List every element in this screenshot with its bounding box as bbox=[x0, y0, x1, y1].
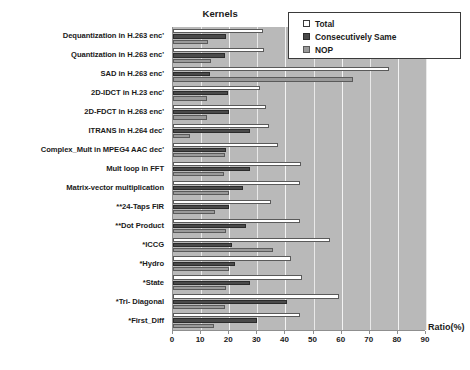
y-axis-label: SAD in H.263 enc' bbox=[101, 69, 164, 79]
y-axis-label: *Tri- Diagonal bbox=[116, 297, 164, 307]
bar-total bbox=[173, 29, 263, 33]
legend-item-cons[interactable]: Consecutively Same bbox=[303, 30, 454, 43]
bar-nop bbox=[173, 115, 207, 119]
bar-total bbox=[173, 143, 278, 147]
bar-group bbox=[173, 141, 426, 160]
bar-total bbox=[173, 294, 339, 298]
x-tick-10 bbox=[200, 331, 201, 334]
bar-total bbox=[173, 86, 260, 90]
legend-item-total[interactable]: Total bbox=[303, 17, 454, 30]
x-tick-label-50: 50 bbox=[308, 335, 317, 344]
bar-cons bbox=[173, 34, 226, 38]
bar-total bbox=[173, 67, 389, 71]
y-axis-label: *ICCG bbox=[142, 240, 164, 250]
x-tick-30 bbox=[256, 331, 257, 334]
bar-group bbox=[173, 84, 426, 103]
gridline-90 bbox=[426, 27, 427, 330]
bar-total bbox=[173, 181, 300, 185]
bar-group bbox=[173, 160, 426, 179]
x-tick-label-80: 80 bbox=[392, 335, 401, 344]
bar-nop bbox=[173, 40, 208, 44]
y-axis-label: 2D-IDCT in H.23 enc' bbox=[91, 88, 164, 98]
x-tick-20 bbox=[228, 331, 229, 334]
y-axis-label: Matrix-vector multiplication bbox=[66, 183, 164, 193]
bar-cons bbox=[173, 318, 257, 322]
bar-group bbox=[173, 103, 426, 122]
y-axis-label: Dequantization in H.263 enc' bbox=[63, 31, 164, 41]
bar-group bbox=[173, 235, 426, 254]
bar-cons bbox=[173, 167, 250, 171]
y-axis-label: *State bbox=[143, 278, 164, 288]
bar-total bbox=[173, 200, 271, 204]
bar-rows bbox=[173, 27, 426, 330]
x-tick-50 bbox=[313, 331, 314, 334]
bar-total bbox=[173, 162, 301, 166]
y-axis-label: *First_Diff bbox=[128, 316, 164, 326]
y-axis-label: Quantization in H.263 enc' bbox=[71, 50, 164, 60]
bar-group bbox=[173, 65, 426, 84]
bar-nop bbox=[173, 229, 226, 233]
x-axis-ticks: 0102030405060708090 bbox=[0, 331, 470, 347]
bar-total bbox=[173, 48, 264, 52]
bar-cons bbox=[173, 243, 232, 247]
bar-cons bbox=[173, 224, 246, 228]
y-axis-label: **Dot Product bbox=[115, 221, 164, 231]
bar-total bbox=[173, 105, 266, 109]
x-tick-label-40: 40 bbox=[280, 335, 289, 344]
y-axis-label: *Hydro bbox=[139, 259, 164, 269]
bar-total bbox=[173, 313, 300, 317]
x-tick-label-0: 0 bbox=[170, 335, 174, 344]
bar-total bbox=[173, 238, 330, 242]
bar-cons bbox=[173, 281, 250, 285]
bar-total bbox=[173, 256, 291, 260]
x-tick-40 bbox=[284, 331, 285, 334]
bar-cons bbox=[173, 262, 235, 266]
bar-cons bbox=[173, 148, 226, 152]
bar-total bbox=[173, 219, 300, 223]
bar-cons bbox=[173, 300, 287, 304]
bar-group bbox=[173, 292, 426, 311]
legend-swatch-nop-icon bbox=[303, 46, 310, 53]
legend-label: Total bbox=[315, 19, 334, 29]
bar-nop bbox=[173, 324, 214, 328]
x-axis-title: Ratio(%) bbox=[428, 322, 465, 332]
legend: TotalConsecutively SameNOP bbox=[288, 12, 461, 59]
bar-cons bbox=[173, 91, 228, 95]
x-tick-90 bbox=[425, 331, 426, 334]
y-axis-label: Complex_Mult in MPEG4 AAC dec' bbox=[41, 145, 164, 155]
x-tick-label-10: 10 bbox=[196, 335, 205, 344]
bar-group bbox=[173, 179, 426, 198]
bar-group bbox=[173, 122, 426, 141]
y-axis-label: Mult loop in FFT bbox=[106, 164, 164, 174]
bar-nop bbox=[173, 248, 273, 252]
bar-total bbox=[173, 275, 302, 279]
bar-nop bbox=[173, 286, 226, 290]
y-axis-label: ITRANS in H.264 dec' bbox=[89, 126, 165, 136]
bar-group bbox=[173, 216, 426, 235]
bar-group bbox=[173, 311, 426, 330]
x-tick-70 bbox=[369, 331, 370, 334]
bar-cons bbox=[173, 72, 210, 76]
legend-swatch-total-icon bbox=[303, 20, 310, 27]
x-tick-label-70: 70 bbox=[364, 335, 373, 344]
legend-item-nop[interactable]: NOP bbox=[303, 43, 454, 56]
bar-nop bbox=[173, 267, 229, 271]
bar-nop bbox=[173, 305, 225, 309]
bar-group bbox=[173, 273, 426, 292]
bar-cons bbox=[173, 205, 229, 209]
legend-label: Consecutively Same bbox=[315, 32, 396, 42]
y-axis-label: **24-Taps FIR bbox=[116, 202, 164, 212]
bar-nop bbox=[173, 210, 215, 214]
bar-cons bbox=[173, 53, 225, 57]
x-tick-80 bbox=[397, 331, 398, 334]
x-tick-0 bbox=[172, 331, 173, 334]
bar-nop bbox=[173, 153, 225, 157]
legend-label: NOP bbox=[315, 45, 333, 55]
bar-nop bbox=[173, 59, 211, 63]
bar-chart: Kernels Dequantization in H.263 enc'Quan… bbox=[0, 0, 470, 370]
y-axis-title: Kernels bbox=[0, 8, 238, 19]
x-tick-label-60: 60 bbox=[336, 335, 345, 344]
bar-cons bbox=[173, 129, 250, 133]
y-axis-label: 2D-FDCT in H.263 enc' bbox=[84, 107, 164, 117]
bar-total bbox=[173, 124, 269, 128]
